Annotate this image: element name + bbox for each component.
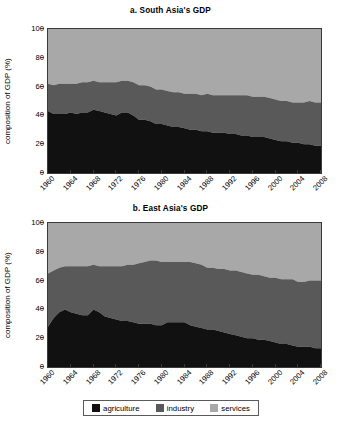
x-tick-mark [275,364,276,368]
x-tick-mark [115,364,116,368]
x-tick-label: 1996 [243,174,261,192]
x-tick-mark [70,170,71,174]
x-tick-label: 1988 [197,368,215,386]
legend-item-services: services [210,404,250,413]
x-tick-mark [70,364,71,368]
stacked-area-south-asia [48,29,321,173]
x-tick-label: 1960 [38,368,56,386]
x-tick-mark [275,170,276,174]
x-tick-label: 1976 [129,174,147,192]
x-tick-label: 2004 [288,174,306,192]
x-tick-mark [47,170,48,174]
x-tick-label: 1980 [152,174,170,192]
y-tick-mark [40,86,44,87]
legend-label-industry: industry [167,404,194,413]
x-tick-label: 1984 [175,174,193,192]
x-tick-mark [138,364,139,368]
x-tick-mark [93,364,94,368]
x-tick-mark [138,170,139,174]
x-tick-label: 2004 [288,368,306,386]
legend-item-agriculture: agriculture [92,404,139,413]
figure-gdp-composition: a. South Asia's GDP composition of GDP (… [0,0,341,431]
x-tick-label: 1964 [61,174,79,192]
legend-label-agriculture: agriculture [103,404,139,413]
x-tick-mark [206,364,207,368]
x-tick-mark [297,170,298,174]
x-tick-label: 1992 [220,174,238,192]
chart-legend: agriculture industry services [83,400,259,416]
x-tick-mark [115,170,116,174]
stacked-area-east-asia [48,223,321,367]
legend-swatch-agriculture [92,404,100,412]
y-tick-mark [40,172,44,173]
x-tick-label: 1972 [106,174,124,192]
y-axis-label-east-asia: composition of GDP (%) [3,224,12,366]
x-tick-label: 1968 [84,368,102,386]
legend-label-services: services [221,404,250,413]
x-tick-mark [184,170,185,174]
legend-item-industry: industry [156,404,194,413]
x-tick-label: 1960 [38,174,56,192]
x-tick-mark [229,364,230,368]
x-tick-mark [252,364,253,368]
y-tick-mark [40,143,44,144]
plot-area-south-asia [47,28,322,174]
y-tick-mark [40,337,44,338]
x-tick-label: 1976 [129,368,147,386]
x-tick-label: 1964 [61,368,79,386]
y-tick-mark [40,280,44,281]
x-tick-label: 2008 [311,174,329,192]
x-tick-label: 2000 [266,174,284,192]
x-tick-mark [252,170,253,174]
y-tick-mark [40,222,44,223]
y-axis-label-south-asia: composition of GDP (%) [3,30,12,172]
x-tick-mark [206,170,207,174]
y-tick-mark [40,308,44,309]
plot-area-east-asia [47,222,322,368]
x-tick-mark [161,364,162,368]
x-tick-label: 2000 [266,368,284,386]
chart-title-east-asia: b. East Asia's GDP [0,204,341,213]
x-tick-label: 1996 [243,368,261,386]
x-tick-label: 1992 [220,368,238,386]
x-tick-mark [93,170,94,174]
y-tick-mark [40,366,44,367]
x-tick-mark [297,364,298,368]
x-tick-mark [320,170,321,174]
x-tick-mark [47,364,48,368]
x-tick-label: 2008 [311,368,329,386]
y-axis-ticks-east-asia: 020406080100 [18,222,44,366]
x-tick-mark [161,170,162,174]
y-tick-mark [40,114,44,115]
x-tick-mark [184,364,185,368]
legend-swatch-services [210,404,218,412]
x-tick-label: 1968 [84,174,102,192]
y-tick-mark [40,57,44,58]
x-tick-label: 1988 [197,174,215,192]
chart-panel-south-asia: a. South Asia's GDP composition of GDP (… [0,0,341,205]
x-tick-label: 1984 [175,368,193,386]
x-tick-mark [320,364,321,368]
y-axis-ticks-south-asia: 020406080100 [18,28,44,172]
chart-title-south-asia: a. South Asia's GDP [0,6,341,15]
y-tick-mark [40,28,44,29]
legend-swatch-industry [156,404,164,412]
y-tick-mark [40,251,44,252]
x-tick-label: 1972 [106,368,124,386]
x-tick-mark [229,170,230,174]
chart-panel-east-asia: b. East Asia's GDP composition of GDP (%… [0,198,341,378]
x-tick-label: 1980 [152,368,170,386]
